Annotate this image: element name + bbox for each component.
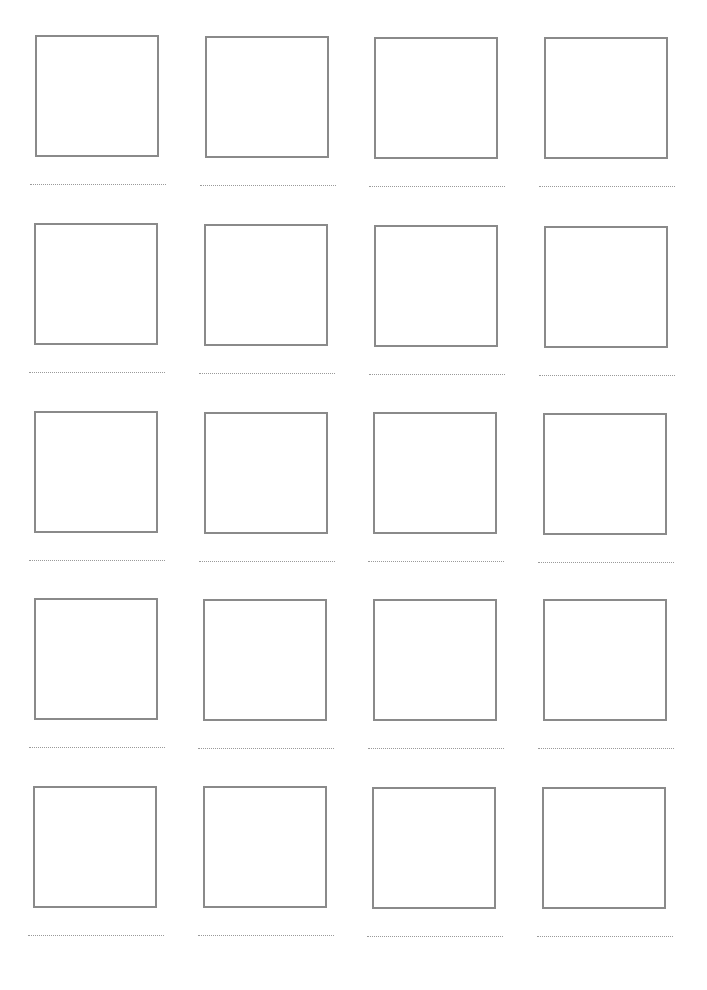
drawing-cell [367, 787, 503, 947]
caption-dotted-line [29, 560, 165, 561]
drawing-box [543, 599, 667, 721]
drawing-cell [29, 411, 165, 571]
drawing-box [374, 37, 498, 159]
drawing-cell [369, 225, 505, 385]
caption-dotted-line [538, 748, 674, 749]
drawing-box [373, 412, 497, 534]
caption-dotted-line [199, 373, 335, 374]
drawing-box [543, 413, 667, 535]
drawing-cell [369, 37, 505, 197]
drawing-box [203, 786, 327, 908]
drawing-cell [30, 35, 166, 195]
drawing-cell [368, 412, 504, 572]
caption-dotted-line [368, 561, 504, 562]
drawing-cell [29, 223, 165, 383]
caption-dotted-line [199, 561, 335, 562]
caption-dotted-line [28, 935, 164, 936]
drawing-box [34, 598, 158, 720]
drawing-cell [200, 36, 336, 196]
drawing-cell [28, 786, 164, 946]
drawing-cell [29, 598, 165, 758]
drawing-box [203, 599, 327, 721]
drawing-cell [539, 226, 675, 386]
caption-dotted-line [30, 184, 166, 185]
drawing-cell [199, 224, 335, 384]
caption-dotted-line [539, 186, 675, 187]
drawing-box [374, 225, 498, 347]
caption-dotted-line [369, 186, 505, 187]
caption-dotted-line [29, 747, 165, 748]
drawing-cell [538, 413, 674, 573]
drawing-box [35, 35, 159, 157]
drawing-cell [199, 412, 335, 572]
drawing-box [372, 787, 496, 909]
worksheet-page [0, 0, 707, 990]
drawing-box [544, 37, 668, 159]
drawing-cell [539, 37, 675, 197]
drawing-cell [368, 599, 504, 759]
drawing-box [204, 224, 328, 346]
drawing-box [33, 786, 157, 908]
caption-dotted-line [198, 935, 334, 936]
caption-dotted-line [367, 936, 503, 937]
drawing-box [204, 412, 328, 534]
drawing-box [205, 36, 329, 158]
drawing-cell [538, 599, 674, 759]
caption-dotted-line [539, 375, 675, 376]
caption-dotted-line [537, 936, 673, 937]
caption-dotted-line [368, 748, 504, 749]
drawing-cell [198, 599, 334, 759]
drawing-cell [537, 787, 673, 947]
caption-dotted-line [200, 185, 336, 186]
drawing-box [373, 599, 497, 721]
drawing-box [542, 787, 666, 909]
caption-dotted-line [369, 374, 505, 375]
caption-dotted-line [538, 562, 674, 563]
caption-dotted-line [198, 748, 334, 749]
caption-dotted-line [29, 372, 165, 373]
drawing-box [544, 226, 668, 348]
drawing-box [34, 223, 158, 345]
drawing-cell [198, 786, 334, 946]
drawing-box [34, 411, 158, 533]
